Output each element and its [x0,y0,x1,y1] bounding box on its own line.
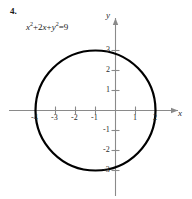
y-tick-label-3: 3 [106,45,110,54]
coordinate-plot [0,0,192,199]
axes-group [9,18,178,196]
x-tick-label--1: -1 [91,113,98,122]
y-tick-label--1: -1 [103,125,110,134]
y-axis-label: y [106,10,110,20]
x-tick-label--3: -3 [51,113,58,122]
x-axis-label: x [178,108,182,118]
x-tick-label--4: -4 [31,113,38,122]
y-tick-label-1: 1 [106,85,110,94]
y-tick-label--2: -2 [103,145,110,154]
figure-container: 4. x2+2x+y2=9 -4 -3 -2 [0,0,192,199]
y-axis-arrow-icon [113,18,118,25]
x-axis-arrow-icon [171,108,178,113]
x-tick-label--2: -2 [71,113,78,122]
y-tick-label--3: -3 [103,165,110,174]
x-tick-label-2: 2 [153,113,157,122]
y-tick-label-2: 2 [106,65,110,74]
x-tick-label-1: 1 [133,113,137,122]
